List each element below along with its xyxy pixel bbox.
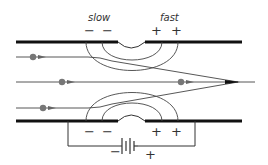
battery-positive-label: + xyxy=(145,148,156,161)
battery-negative-label: − xyxy=(110,145,121,158)
top-positive-charge: + xyxy=(151,24,162,37)
top-field-lines xyxy=(86,42,178,71)
fast-label: fast xyxy=(160,12,179,23)
top-negative-charge: − xyxy=(102,24,113,37)
particle-paths xyxy=(16,57,255,108)
slow-label: slow xyxy=(88,12,110,23)
battery-icon xyxy=(120,138,138,154)
bottom-positive-charge: + xyxy=(171,125,182,138)
diagram-canvas xyxy=(0,0,268,165)
bottom-plate xyxy=(16,115,242,121)
top-positive-charge: + xyxy=(171,24,182,37)
top-plate xyxy=(16,42,242,48)
particles xyxy=(30,54,184,111)
bottom-negative-charge: − xyxy=(102,125,113,138)
bottom-negative-charge: − xyxy=(84,125,95,138)
bottom-positive-charge: + xyxy=(151,125,162,138)
top-negative-charge: − xyxy=(84,24,95,37)
